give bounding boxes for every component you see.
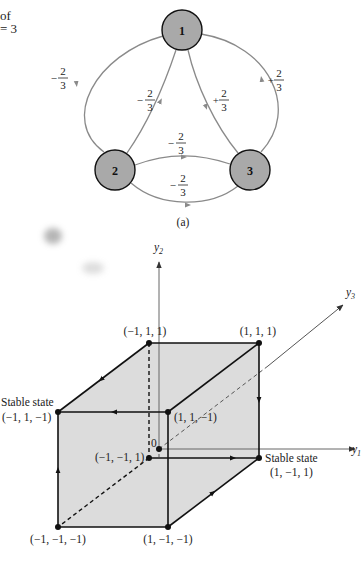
vertex-label-back-bottom-left: (−1, −1, 1) bbox=[95, 451, 145, 464]
svg-text:−: − bbox=[170, 179, 176, 191]
vertex-label-back-bottom-right: (1, −1, 1) bbox=[270, 466, 313, 479]
edge-2-to-3-upper bbox=[135, 156, 230, 165]
vertex-label-front-top-left: (−1, 1, −1) bbox=[2, 411, 52, 424]
y3-axis bbox=[268, 305, 343, 366]
svg-text:3: 3 bbox=[178, 144, 184, 156]
origin-label: 0 bbox=[151, 437, 157, 449]
vertex-back-bottom-left bbox=[146, 455, 152, 461]
edge-1-to-2-arrow bbox=[76, 80, 77, 84]
svg-text:−: − bbox=[51, 72, 57, 84]
node-2: 2 bbox=[95, 150, 135, 190]
weight-label-edge-2-to-3-lower: − 2 3 bbox=[170, 172, 188, 198]
edge-1-to-3-arrow bbox=[205, 104, 206, 107]
svg-text:−: − bbox=[137, 94, 143, 106]
svg-text:3: 3 bbox=[221, 101, 227, 113]
vertex-front-top-right bbox=[165, 409, 171, 415]
vertex-label-back-top-left: (−1, 1, 1) bbox=[124, 325, 167, 338]
vertex-back-bottom-right bbox=[256, 455, 262, 461]
weight-label-edge-1-to-3: + 2 3 bbox=[213, 87, 229, 113]
svg-text:3: 3 bbox=[276, 81, 282, 93]
vertex-front-top-left bbox=[55, 409, 61, 415]
weight-label-edge-2-to-1: − 2 3 bbox=[137, 87, 155, 113]
svg-text:3: 3 bbox=[180, 186, 186, 198]
vertex-label-front-bottom-left: (−1, −1, −1) bbox=[30, 533, 86, 546]
y2-axis-label: y2 bbox=[153, 241, 163, 256]
vertex-label-front-bottom-right: (1, −1, −1) bbox=[143, 533, 193, 546]
svg-text:2: 2 bbox=[147, 87, 153, 99]
vertex-back-top-left bbox=[146, 340, 152, 346]
edge-3-to-1 bbox=[201, 34, 278, 152]
vertex-front-bottom-left bbox=[55, 524, 61, 530]
vertex-back-top-right bbox=[256, 340, 262, 346]
svg-text:2: 2 bbox=[276, 67, 282, 79]
node-3-label: 3 bbox=[247, 164, 253, 178]
svg-text:+: + bbox=[268, 74, 274, 86]
node-3: 3 bbox=[230, 150, 270, 190]
subfigure-caption-a: (a) bbox=[177, 216, 190, 229]
node-1-label: 1 bbox=[179, 24, 185, 38]
edge-3-to-1-arrow bbox=[262, 79, 263, 82]
node-2-label: 2 bbox=[112, 164, 118, 178]
svg-text:2: 2 bbox=[221, 87, 227, 99]
vertex-front-bottom-right bbox=[165, 524, 171, 530]
network-diagram: 1 2 3 − 2 3 − 2 3 + 2 3 + bbox=[51, 10, 284, 229]
node-1: 1 bbox=[162, 10, 202, 50]
svg-text:2: 2 bbox=[180, 172, 186, 184]
origin-point bbox=[156, 446, 162, 452]
y3-axis-label: y3 bbox=[345, 286, 355, 301]
svg-text:2: 2 bbox=[178, 130, 184, 142]
figure-canvas: 1 2 3 − 2 3 − 2 3 + 2 3 + bbox=[0, 0, 362, 561]
state-cube: y2 y3 y1 0 (−1, 1, 1) (1, 1, 1) Stable s… bbox=[1, 241, 361, 546]
svg-text:−: − bbox=[168, 137, 174, 149]
y1-axis-label: y1 bbox=[351, 443, 361, 458]
stable-state-label-left: Stable state bbox=[1, 396, 54, 408]
weight-label-edge-2-to-3-upper: − 2 3 bbox=[168, 130, 186, 156]
weight-label-edge-1-to-2: − 2 3 bbox=[51, 65, 68, 91]
edge-2-to-1-arrow bbox=[159, 101, 161, 104]
weight-label-edge-3-to-1: + 2 3 bbox=[268, 67, 284, 93]
svg-text:2: 2 bbox=[60, 65, 66, 77]
vertex-label-back-top-right: (1, 1, 1) bbox=[240, 325, 277, 338]
svg-text:3: 3 bbox=[147, 101, 153, 113]
svg-text:3: 3 bbox=[60, 79, 66, 91]
stable-state-label-right: Stable state bbox=[265, 452, 318, 464]
svg-text:+: + bbox=[213, 94, 219, 106]
vertex-label-front-top-right: (1, 1, −1) bbox=[174, 411, 217, 424]
